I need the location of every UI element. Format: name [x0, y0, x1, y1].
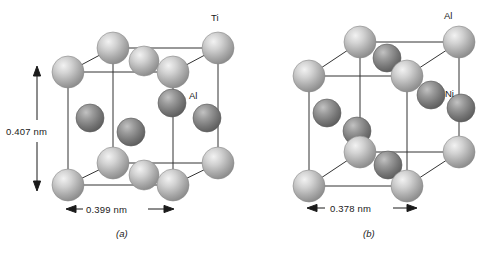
dimension-label-width-b: 0.378 nm [330, 203, 371, 214]
atom-label-ti: Ti [211, 12, 219, 23]
atom-label-al-b: Al [444, 10, 452, 21]
unit-cell-panel-a: Ti Al 0.407 nm 0.399 nm (a) [0, 0, 247, 255]
interior-atoms-al-a [76, 89, 221, 146]
dimension-label-width-a: 0.399 nm [86, 204, 127, 215]
unit-cell-diagram-b [247, 0, 494, 255]
panel-caption-b: (b) [363, 228, 375, 239]
figure-root: Ti Al 0.407 nm 0.399 nm (a) [0, 0, 494, 255]
unit-cell-panel-b: Al Ni 0.378 nm (b) [247, 0, 494, 255]
dimension-label-height-a: 0.407 nm [6, 126, 47, 137]
panel-caption-a: (a) [116, 228, 128, 239]
atom-label-ni: Ni [445, 88, 454, 99]
atom-label-al-a: Al [189, 90, 197, 101]
